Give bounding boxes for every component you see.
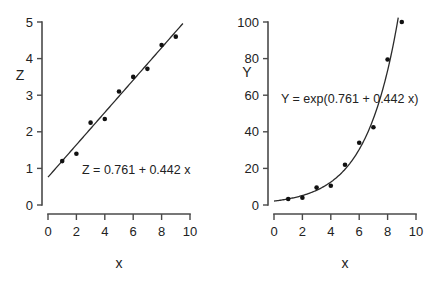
x-tick-label: 6 [356,224,363,239]
y-tick-label: 0 [252,198,259,213]
regression-curve [274,18,398,201]
x-tick-label: 4 [101,224,108,239]
data-point [357,140,362,145]
y-tick-labels: 012345 [26,15,33,213]
x-tick-marks [274,214,416,220]
data-point [60,159,65,164]
x-tick-label: 0 [270,224,277,239]
data-point [286,197,291,202]
data-point [343,162,348,167]
x-tick-label: 2 [73,224,80,239]
y-tick-label: 40 [245,124,259,139]
x-tick-label: 0 [44,224,51,239]
x-axis-title: x [116,255,123,271]
data-point [88,120,93,125]
y-axis-right: 020406080100 [237,15,268,213]
y-tick-label: 1 [26,161,33,176]
equation-annotation: Y = exp(0.761 + 0.442 x) [281,92,418,106]
data-point [371,125,376,130]
x-tick-label: 6 [130,224,137,239]
data-point [174,34,179,39]
y-tick-label: 60 [245,88,259,103]
data-point [145,67,150,72]
y-tick-label: 2 [26,124,33,139]
equation-annotation: Z = 0.761 + 0.442 x [82,163,191,177]
x-tick-label: 2 [299,224,306,239]
data-point [385,57,390,62]
x-tick-label: 4 [327,224,334,239]
chart-panel-left: 012345 0246810 Z x Z = 0.761 + 0.442 x [0,0,220,283]
y-tick-label: 100 [237,15,259,30]
data-point [74,151,79,156]
data-point [159,43,164,48]
y-axis-left: 012345 [26,15,42,213]
exponential-regression-chart: 020406080100 0246810 Y x Y = exp(0.761 +… [215,0,440,283]
y-tick-label: 5 [26,15,33,30]
data-point [103,117,108,122]
x-tick-label: 10 [409,224,423,239]
linear-regression-chart: 012345 0246810 Z x Z = 0.761 + 0.442 x [0,0,220,283]
data-point [314,185,319,190]
data-point [329,183,334,188]
y-tick-label: 4 [26,51,33,66]
figure-root: 012345 0246810 Z x Z = 0.761 + 0.442 x 0… [0,0,440,283]
y-tick-label: 0 [26,198,33,213]
x-axis-title: x [342,255,349,271]
x-tick-marks [48,214,190,220]
x-tick-label: 8 [158,224,165,239]
x-tick-label: 10 [183,224,197,239]
data-point [400,20,405,25]
x-axis-left: 0246810 [44,214,197,239]
y-tick-label: 20 [245,161,259,176]
data-point-group [286,20,404,202]
data-point [131,75,136,80]
x-tick-label: 8 [384,224,391,239]
x-tick-labels: 0246810 [270,224,423,239]
data-point [300,195,305,200]
x-axis-right: 0246810 [270,214,423,239]
y-tick-label: 3 [26,88,33,103]
y-axis-title: Z [16,67,25,83]
y-tick-labels: 020406080100 [237,15,259,213]
data-point [117,89,122,94]
y-axis-title: Y [242,64,252,80]
x-tick-labels: 0246810 [44,224,197,239]
chart-panel-right: 020406080100 0246810 Y x Y = exp(0.761 +… [215,0,440,283]
